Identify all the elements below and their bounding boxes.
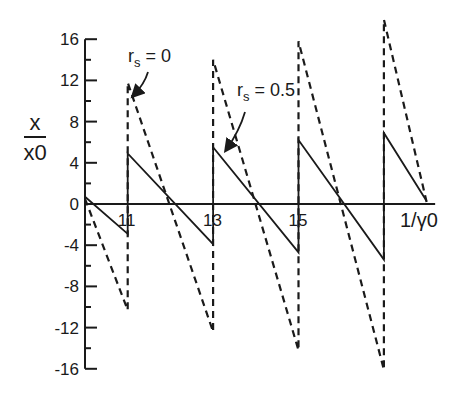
y-tick-label: 0 — [70, 195, 79, 214]
annotation-label: rs = 0 — [128, 46, 171, 70]
y-label-denominator: x0 — [23, 140, 46, 165]
annotations: rs = 0rs = 0.5 — [128, 46, 295, 150]
y-label-numerator: x — [30, 110, 41, 135]
y-tick-label: 4 — [70, 154, 79, 173]
x-axis-label: 1/γ0 — [400, 209, 438, 231]
annotation-arrow — [226, 112, 245, 150]
y-tick-label: 8 — [70, 113, 79, 132]
y-tick-label: 16 — [60, 30, 79, 49]
y-tick-label: -8 — [64, 277, 79, 296]
annotation-arrow — [133, 72, 148, 96]
annotation-label: rs = 0.5 — [237, 80, 295, 104]
y-tick-label: -16 — [54, 360, 79, 379]
y-tick-label: -4 — [64, 236, 79, 255]
sawtooth-chart: 1612840-4-8-12-16 111315 rs = 0rs = 0.5 … — [0, 0, 449, 394]
y-tick-label: 12 — [60, 71, 79, 90]
y-axis-label: x x0 — [23, 110, 46, 165]
series-rs-0 — [85, 20, 427, 370]
series-rs-0-5 — [85, 133, 427, 260]
series-layer — [85, 20, 427, 370]
y-tick-label: -12 — [54, 319, 79, 338]
